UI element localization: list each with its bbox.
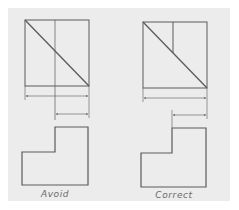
caption-avoid: Avoid bbox=[20, 189, 90, 199]
avoid-top-view bbox=[25, 20, 89, 120]
correct-example bbox=[141, 22, 207, 187]
correct-extension-lines bbox=[143, 88, 207, 128]
caption-correct: Correct bbox=[139, 190, 209, 200]
avoid-extension-lines bbox=[25, 86, 89, 118]
orthographic-drawing bbox=[0, 0, 239, 210]
correct-top-view bbox=[143, 22, 207, 88]
avoid-front-view bbox=[22, 127, 88, 185]
avoid-example bbox=[22, 20, 89, 185]
correct-front-view bbox=[141, 128, 206, 187]
